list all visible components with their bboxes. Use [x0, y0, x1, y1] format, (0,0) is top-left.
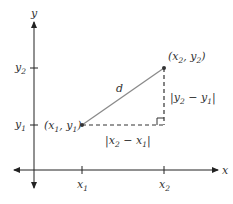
- y-axis-label: y: [30, 7, 38, 20]
- horizontal-leg-label: |x2 − x1|: [105, 134, 151, 149]
- y2-tick-label: y2: [14, 61, 26, 76]
- x2-tick-label: x2: [159, 178, 170, 193]
- vertical-leg-label: |y2 − y1|: [170, 91, 216, 106]
- x-axis-label: x: [222, 164, 229, 177]
- distance-label: d: [116, 82, 123, 95]
- point-1-label: (x1, y1): [44, 119, 82, 134]
- x1-tick-label: x1: [77, 178, 88, 193]
- point-2-label: (x2, y2): [168, 50, 206, 65]
- distance-diagram: y x x1 x2 y2 y1 (x1, y1) (x2, y2) d |x2 …: [0, 0, 233, 204]
- y1-tick-label: y1: [14, 118, 26, 133]
- distance-segment: [82, 68, 164, 125]
- point-2: [162, 66, 166, 70]
- right-angle-marker: [157, 118, 164, 125]
